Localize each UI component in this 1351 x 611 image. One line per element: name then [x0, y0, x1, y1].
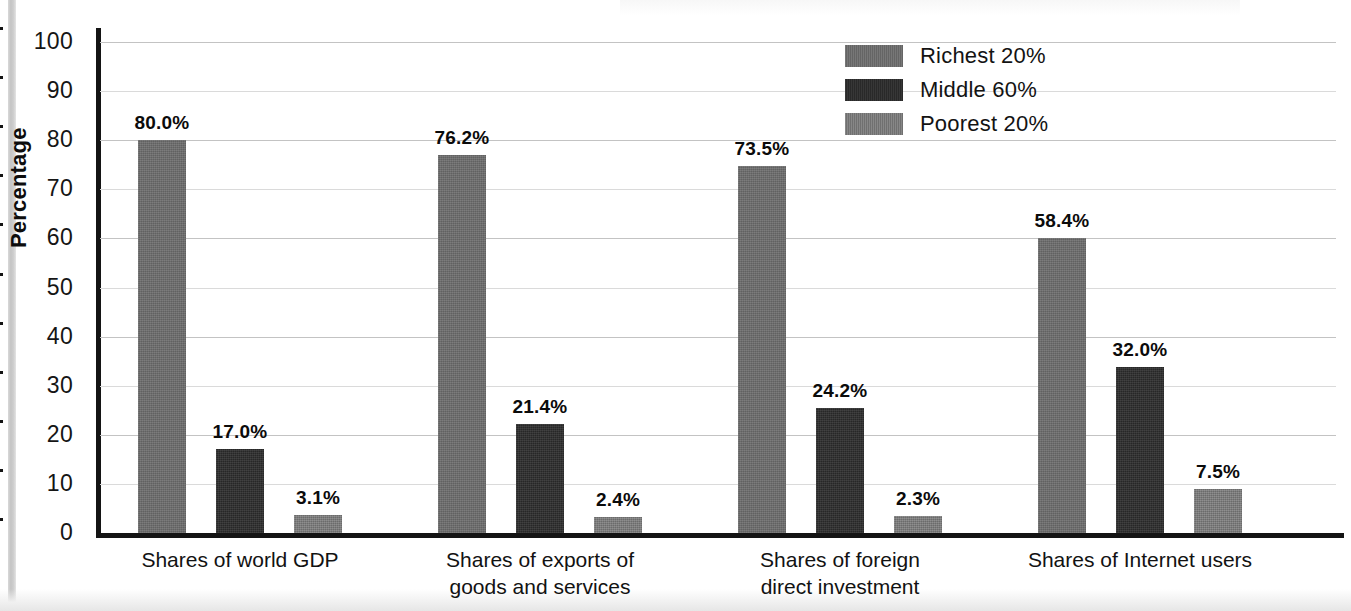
y-axis-tick-mark — [0, 27, 3, 30]
bar[interactable]: 3.1% — [294, 515, 342, 533]
bar-value-label: 73.5% — [735, 138, 790, 160]
bar-value-label: 2.4% — [596, 489, 640, 511]
y-axis-tick-label: 100 — [3, 28, 73, 55]
y-axis-tick-mark — [0, 76, 3, 79]
legend-swatch-middle — [845, 79, 903, 101]
bar[interactable]: 21.4% — [516, 424, 564, 533]
legend-item-label: Poorest 20% — [920, 111, 1048, 137]
bar-fill — [138, 140, 186, 533]
plot-area: 0102030405060708090100 80.0%17.0%3.1%76.… — [100, 42, 1336, 533]
bar[interactable]: 24.2% — [816, 408, 864, 533]
legend-item[interactable]: Poorest 20% — [845, 110, 1048, 137]
bar-value-label: 80.0% — [135, 112, 190, 134]
x-axis-category-label: Shares of Internet users — [980, 546, 1300, 573]
bar-value-label: 17.0% — [213, 421, 268, 443]
legend-item-label: Richest 20% — [920, 43, 1046, 69]
x-axis-category-label: Shares of exports of goods and services — [380, 546, 700, 600]
bar-value-label: 76.2% — [435, 127, 490, 149]
bar[interactable]: 73.5% — [738, 166, 786, 533]
bar-fill — [738, 166, 786, 533]
bar-value-label: 7.5% — [1196, 461, 1240, 483]
bar-fill — [816, 408, 864, 533]
bar-fill — [894, 516, 942, 533]
bar[interactable]: 76.2% — [438, 155, 486, 533]
y-axis-tick-mark — [0, 273, 3, 276]
bar-fill — [294, 515, 342, 533]
y-axis-tick-label: 40 — [3, 323, 73, 350]
y-axis-tick-label: 50 — [3, 274, 73, 301]
x-axis-line — [96, 533, 1344, 538]
bar-fill — [438, 155, 486, 533]
y-axis-tick-label: 20 — [3, 421, 73, 448]
legend-swatch-poorest — [845, 113, 903, 135]
y-axis-tick-label: 90 — [3, 77, 73, 104]
bar-value-label: 3.1% — [296, 487, 340, 509]
bar-value-label: 21.4% — [513, 396, 568, 418]
bar[interactable]: 58.4% — [1038, 238, 1086, 533]
y-axis-tick-label: 0 — [3, 519, 73, 546]
y-axis-tick-mark — [0, 322, 3, 325]
legend-item-label: Middle 60% — [920, 77, 1037, 103]
legend-swatch-richest — [845, 45, 903, 67]
y-axis-tick-mark — [0, 223, 3, 226]
bar-fill — [516, 424, 564, 533]
x-axis-category-label: Shares of world GDP — [80, 546, 400, 573]
y-axis-tick-mark — [0, 518, 3, 521]
x-axis-category-label: Shares of foreign direct investment — [680, 546, 1000, 600]
y-axis-tick-mark — [0, 125, 3, 128]
y-axis-tick-label: 10 — [3, 470, 73, 497]
bar-fill — [1038, 238, 1086, 533]
bar-fill — [594, 517, 642, 533]
y-axis-tick-mark — [0, 469, 3, 472]
bar-value-label: 32.0% — [1113, 339, 1168, 361]
bar-fill — [1194, 489, 1242, 533]
y-axis-tick-mark — [0, 174, 3, 177]
y-axis-tick-label: 70 — [3, 175, 73, 202]
bar[interactable]: 2.4% — [594, 517, 642, 533]
y-axis-tick-mark — [0, 420, 3, 423]
bar-group: 76.2%21.4%2.4% — [438, 42, 642, 533]
bar[interactable]: 7.5% — [1194, 489, 1242, 533]
legend-item[interactable]: Middle 60% — [845, 76, 1048, 103]
bar[interactable]: 17.0% — [216, 449, 264, 533]
legend-item[interactable]: Richest 20% — [845, 42, 1048, 69]
bar-value-label: 24.2% — [813, 380, 868, 402]
bar[interactable]: 2.3% — [894, 516, 942, 533]
chart-legend: Richest 20%Middle 60%Poorest 20% — [845, 42, 1048, 144]
bar[interactable]: 32.0% — [1116, 367, 1164, 533]
bar-group: 80.0%17.0%3.1% — [138, 42, 342, 533]
y-axis-tick-label: 80 — [3, 126, 73, 153]
bar-value-label: 58.4% — [1035, 210, 1090, 232]
bar[interactable]: 80.0% — [138, 140, 186, 533]
bar-fill — [216, 449, 264, 533]
y-axis-tick-mark — [0, 371, 3, 374]
bar-value-label: 2.3% — [896, 488, 940, 510]
bar-group: 58.4%32.0%7.5% — [1038, 42, 1242, 533]
y-axis-tick-label: 60 — [3, 224, 73, 251]
grouped-bar-chart: Percentage 0102030405060708090100 80.0%1… — [0, 0, 1351, 611]
y-axis-tick-label: 30 — [3, 372, 73, 399]
bar-fill — [1116, 367, 1164, 533]
